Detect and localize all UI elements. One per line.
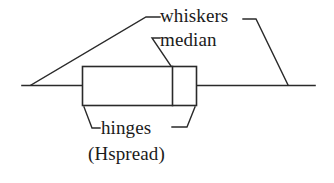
hinges-right-leader bbox=[172, 107, 195, 127]
boxplot-diagram-canvas bbox=[0, 0, 334, 183]
median-label: median bbox=[160, 30, 217, 49]
boxplot-diagram-figure: whiskers median hinges (Hspread) bbox=[0, 0, 334, 183]
hinge-box bbox=[83, 67, 197, 106]
hinges-label: hinges bbox=[101, 118, 151, 137]
whiskers-label: whiskers bbox=[160, 6, 228, 25]
hinges-left-leader bbox=[84, 107, 100, 128]
whiskers-right-leader bbox=[243, 19, 288, 85]
hspread-label: (Hspread) bbox=[88, 144, 165, 163]
